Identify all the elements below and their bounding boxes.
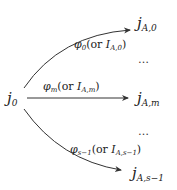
label-phi-m: φm(or IA,m)	[43, 81, 100, 94]
label-phi-0-or: (or	[86, 38, 106, 51]
label-phi-0-phi: φ	[74, 38, 82, 51]
label-phi-0-Isub: A,0	[110, 44, 122, 52]
node-jAm: jA,m	[137, 91, 160, 108]
ellipsis-upper: …	[138, 54, 150, 65]
node-jA0: jA,0	[137, 16, 157, 33]
node-j0-sub: 0	[12, 98, 18, 108]
label-phi-m-phi: φ	[43, 80, 51, 93]
node-jAm-sub: A,m	[142, 98, 160, 108]
label-phi-s-1: φs−1(or IA,s−1)	[70, 144, 141, 157]
node-jA0-sub: A,0	[142, 23, 157, 33]
node-j0: j0	[7, 91, 17, 108]
node-jAs1: jA,s−1	[132, 166, 164, 183]
label-phi-s1-or: (or	[92, 143, 112, 156]
label-phi-s1-Isub: A,s−1	[116, 149, 137, 157]
label-phi-s1-phi: φ	[70, 143, 78, 156]
arrow-phi-s-1	[24, 109, 121, 170]
ellipsis-lower: …	[138, 126, 150, 137]
label-phi-m-close: )	[95, 80, 99, 93]
label-phi-0-close: )	[122, 38, 126, 51]
label-phi-s1-phisub: s−1	[78, 149, 92, 157]
label-phi-m-or: (or	[57, 80, 77, 93]
label-phi-s1-close: )	[137, 143, 141, 156]
label-phi-m-Isub: A,m	[81, 86, 95, 94]
node-jAs1-sub: A,s−1	[137, 173, 164, 183]
label-phi-0: φ0(or IA,0)	[74, 39, 126, 52]
